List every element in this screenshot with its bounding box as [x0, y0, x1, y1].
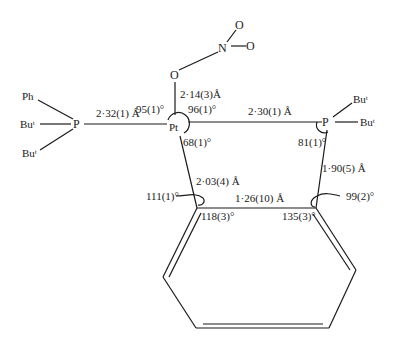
label-angle-111: 111(1)°: [146, 190, 179, 203]
atom-n-nitrate: N: [218, 41, 227, 55]
label-pt-p-left-length: 2·32(1) Å: [96, 107, 140, 120]
ring-bond-left-bottom: [163, 277, 196, 328]
atom-bu-left-bottom: Buᵗ: [22, 147, 37, 159]
bond-p-ph: [38, 100, 73, 119]
ring-bond-c1-left-double: [169, 213, 201, 277]
molecular-structure-diagram: O N O O 2·14(3)Å Pt 95(1)° 96(1)° 68(1)°…: [0, 0, 394, 349]
ring-bond-bottom-right: [329, 270, 356, 328]
atom-bu-right-mid: Buᵗ: [360, 116, 375, 128]
angle-arrow-99: [311, 194, 340, 207]
label-c-c-length: 1·26(10) Å: [235, 192, 284, 205]
label-p-c-length: 1·90(5) Å: [322, 162, 366, 175]
label-pt-p-right-length: 2·30(1) Å: [248, 105, 292, 118]
label-pt-o-length: 2·14(3)Å: [180, 88, 221, 101]
label-angle-99: 99(2)°: [346, 190, 374, 203]
atom-ph: Ph: [22, 90, 34, 102]
label-angle-96: 96(1)°: [188, 103, 216, 116]
bond-p-bu-top: [333, 103, 352, 117]
bond-o-n: [179, 52, 218, 70]
label-angle-95: 95(1)°: [136, 103, 164, 116]
label-pt-c-length: 2·03(4) Å: [196, 175, 240, 188]
ring-bond-c1-left: [163, 208, 197, 277]
atom-p-left: P: [73, 117, 80, 131]
label-angle-118: 118(3)°: [201, 210, 234, 223]
atom-bu-right-top: Buᵗ: [353, 93, 368, 105]
atom-o-top: O: [235, 18, 244, 32]
ring-bond-c2-right: [316, 208, 356, 270]
atom-o-right: O: [246, 39, 255, 53]
label-angle-135: 135(3)°: [282, 210, 316, 223]
atom-p-right: P: [322, 115, 329, 129]
ring-bond-c2-right-double: [313, 214, 350, 270]
atom-pt: Pt: [169, 121, 178, 133]
angle-arrow-111: [176, 195, 204, 205]
bond-p-bu-bottom: [40, 129, 73, 150]
label-angle-81: 81(1)°: [298, 136, 326, 149]
atom-bu-left-mid: Buᵗ: [20, 118, 35, 130]
label-angle-68: 68(1)°: [183, 136, 211, 149]
atom-o-nitrate: O: [170, 68, 179, 82]
